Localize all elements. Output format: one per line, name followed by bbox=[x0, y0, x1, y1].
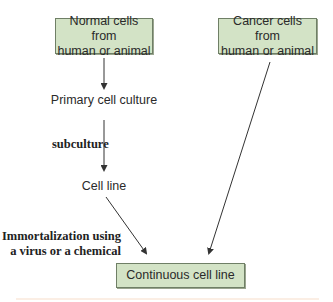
node-normal-cells-line2: human or animal bbox=[56, 44, 152, 59]
node-normal-cells: Normal cells from human or animal bbox=[55, 18, 153, 54]
node-normal-cells-line1: Normal cells from bbox=[56, 14, 152, 44]
bottom-divider bbox=[16, 298, 319, 300]
arrow-cancer-to-continuous bbox=[209, 62, 270, 253]
node-cancer-cells: Cancer cells from human or animal bbox=[218, 18, 317, 54]
cell-culture-diagram: Normal cells from human or animal Cancer… bbox=[0, 0, 333, 302]
edge-label-immortalization-line1: Immortalization using bbox=[0, 229, 121, 244]
node-cancer-cells-line1: Cancer cells from bbox=[219, 14, 316, 44]
edge-label-immortalization-line2: a virus or a chemical bbox=[0, 244, 121, 259]
node-primary-cell-culture: Primary cell culture bbox=[50, 93, 158, 107]
node-cancer-cells-line2: human or animal bbox=[219, 44, 316, 59]
edge-label-subculture: subculture bbox=[52, 137, 109, 152]
node-continuous-cell-line-label: Continuous cell line bbox=[126, 268, 234, 283]
node-continuous-cell-line: Continuous cell line bbox=[116, 263, 245, 288]
node-cell-line: Cell line bbox=[70, 179, 138, 193]
edge-label-immortalization: Immortalization using a virus or a chemi… bbox=[0, 229, 121, 259]
